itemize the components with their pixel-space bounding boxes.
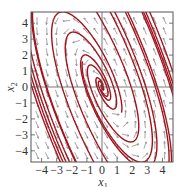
y-tick-label: −2	[15, 112, 28, 126]
x-tick-label: −4	[35, 163, 48, 177]
phase-portrait-figure: −4−3−2−101234−4−3−2−101234 x1 x2	[0, 0, 179, 187]
x-tick-label: 4	[159, 163, 165, 177]
y-tick-label: 0	[22, 80, 28, 94]
x-tick-label: 2	[129, 163, 135, 177]
trajectory-curve	[32, 0, 86, 183]
x-tick-label: 1	[114, 163, 120, 177]
x-axis-label: x1	[97, 175, 107, 187]
y-tick-label: 1	[22, 64, 28, 78]
x-tick-label: 3	[144, 163, 150, 177]
y-tick-label: −4	[15, 144, 28, 158]
y-tick-label: 3	[22, 32, 28, 46]
x-tick-label: −1	[81, 163, 94, 177]
trajectory-curve	[81, 0, 157, 168]
x-tick-label: −3	[50, 163, 63, 177]
y-tick-label: 2	[22, 48, 28, 62]
y-tick-label: −3	[15, 128, 28, 142]
y-tick-label: −1	[15, 96, 28, 110]
trajectory-curve	[82, 0, 152, 162]
y-tick-label: 4	[22, 16, 28, 30]
x-tick-label: −2	[65, 163, 78, 177]
y-axis-label: x2	[3, 82, 19, 92]
